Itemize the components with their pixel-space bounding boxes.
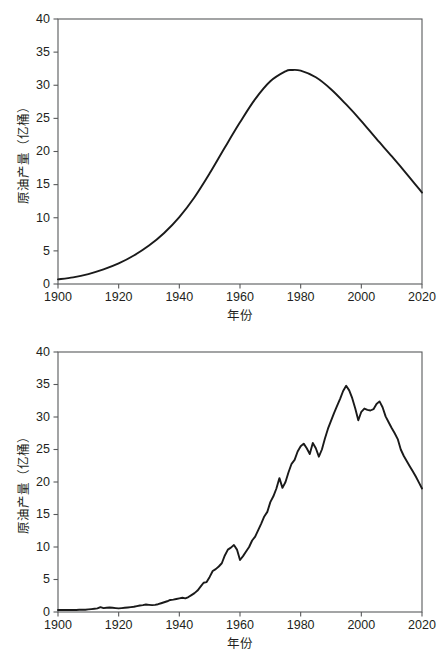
chart-panel-bottom: 0510152025303540190019201940196019802000… bbox=[0, 340, 442, 667]
x-tick-label: 1960 bbox=[226, 618, 254, 632]
hubbert-curve-chart: 0510152025303540190019201940196019802000… bbox=[0, 0, 442, 340]
x-tick-label: 1940 bbox=[165, 290, 193, 304]
x-tick-label: 1960 bbox=[226, 290, 254, 304]
y-axis-title: 原油产量（亿桶） bbox=[16, 100, 31, 204]
x-axis-title: 年份 bbox=[227, 637, 253, 651]
actual-production-chart: 0510152025303540190019201940196019802000… bbox=[0, 340, 442, 667]
y-tick-label: 20 bbox=[36, 144, 50, 158]
y-tick-label: 30 bbox=[36, 410, 50, 424]
data-series-line-0 bbox=[58, 70, 422, 280]
x-tick-label: 2000 bbox=[347, 290, 375, 304]
plot-frame bbox=[58, 352, 422, 612]
y-axis-title: 原油产量（亿桶） bbox=[16, 430, 31, 534]
chart-panel-top: 0510152025303540190019201940196019802000… bbox=[0, 0, 442, 340]
y-tick-label: 35 bbox=[36, 377, 50, 391]
y-tick-label: 10 bbox=[36, 211, 50, 225]
y-tick-label: 0 bbox=[43, 277, 50, 291]
y-tick-label: 10 bbox=[36, 540, 50, 554]
x-tick-label: 1980 bbox=[287, 618, 315, 632]
y-tick-label: 5 bbox=[43, 244, 50, 258]
plot-frame bbox=[58, 19, 422, 284]
y-tick-label: 35 bbox=[36, 45, 50, 59]
data-series-line-0 bbox=[58, 386, 422, 610]
y-tick-label: 30 bbox=[36, 78, 50, 92]
y-tick-label: 0 bbox=[43, 605, 50, 619]
x-tick-label: 1900 bbox=[44, 618, 72, 632]
y-tick-label: 5 bbox=[43, 572, 50, 586]
x-tick-label: 1920 bbox=[105, 618, 133, 632]
x-axis-title: 年份 bbox=[227, 309, 253, 323]
x-tick-label: 1920 bbox=[105, 290, 133, 304]
y-tick-label: 40 bbox=[36, 12, 50, 26]
y-tick-label: 25 bbox=[36, 111, 50, 125]
x-tick-label: 1940 bbox=[165, 618, 193, 632]
x-tick-label: 1980 bbox=[287, 290, 315, 304]
y-tick-label: 25 bbox=[36, 442, 50, 456]
y-tick-label: 15 bbox=[36, 507, 50, 521]
x-tick-label: 2000 bbox=[347, 618, 375, 632]
x-tick-label: 2020 bbox=[408, 618, 436, 632]
y-tick-label: 40 bbox=[36, 345, 50, 359]
x-tick-label: 1900 bbox=[44, 290, 72, 304]
y-tick-label: 20 bbox=[36, 475, 50, 489]
y-tick-label: 15 bbox=[36, 177, 50, 191]
x-tick-label: 2020 bbox=[408, 290, 436, 304]
